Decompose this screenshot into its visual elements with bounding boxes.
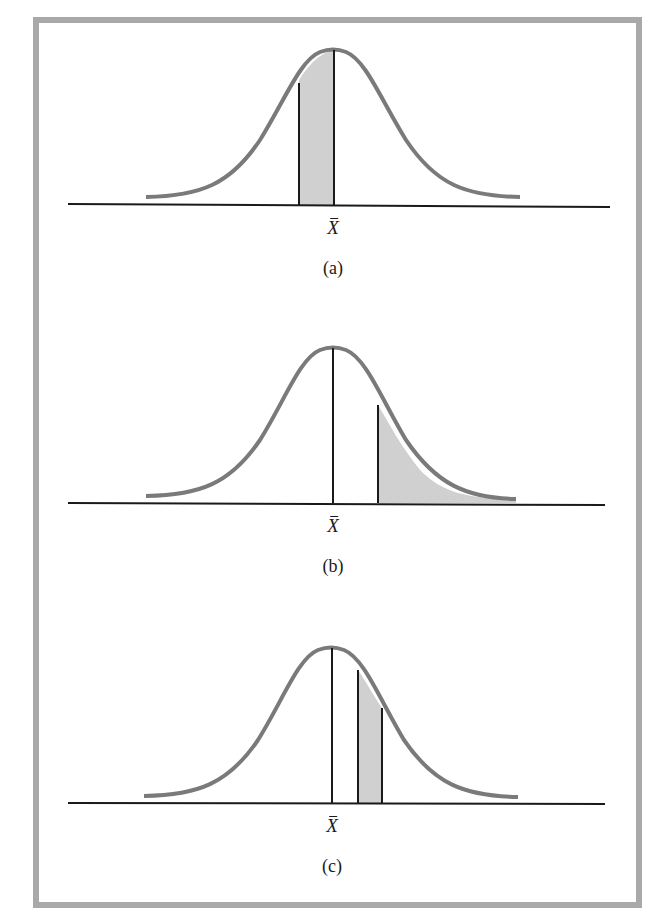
panel-b-normal-curve [146, 348, 516, 499]
overline-bar [329, 816, 337, 817]
panel-a-baseline [68, 204, 610, 207]
panel-c-caption: (c) [322, 856, 342, 877]
panel-a-mean-label: X [327, 217, 339, 239]
panel-c-baseline [68, 803, 605, 804]
normal-curves-figure [0, 0, 667, 920]
panel-a-chart [68, 50, 610, 207]
panel-a-shaded-area [299, 50, 333, 205]
overline-bar [330, 218, 338, 219]
mean-symbol: X [326, 815, 338, 836]
panel-b-caption: (b) [323, 556, 344, 577]
mean-symbol: X [327, 515, 339, 536]
overline-bar [330, 516, 338, 517]
panel-b-baseline [68, 503, 605, 505]
panel-b-shaded-area [378, 405, 516, 503]
mean-symbol: X [327, 217, 339, 238]
panel-b-mean-label: X [327, 515, 339, 537]
panel-b-chart [68, 348, 605, 505]
panel-c-chart [68, 648, 605, 804]
panel-c-mean-label: X [326, 815, 338, 837]
panel-a-caption: (a) [323, 258, 343, 279]
